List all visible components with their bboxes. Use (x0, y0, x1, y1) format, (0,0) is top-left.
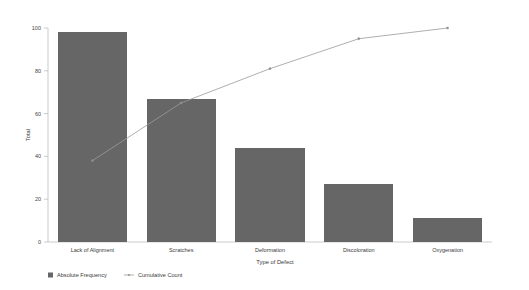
cumulative-point (91, 160, 93, 162)
bar (58, 32, 127, 242)
y-tick-label: 80 (35, 68, 41, 74)
chart-legend: Absolute FrequencyCumulative Count (48, 272, 183, 278)
bar (147, 99, 216, 242)
legend-swatch-marker (128, 274, 130, 276)
cumulative-point (447, 27, 449, 29)
y-tick-group: 020406080100 (32, 25, 48, 245)
bar (235, 148, 304, 242)
chart-canvas: 020406080100 Total Lack of AlignmentScra… (0, 0, 529, 290)
pareto-chart: 020406080100 Total Lack of AlignmentScra… (0, 0, 529, 290)
x-tick-label: Scratches (169, 247, 194, 253)
legend-label: Cumulative Count (138, 272, 183, 278)
x-tick-label: Lack of Alignment (71, 247, 115, 253)
x-axis-title: Type of Defect (256, 259, 294, 265)
x-axis: Lack of AlignmentScratchesDeformationDis… (48, 242, 492, 265)
cumulative-point (358, 38, 360, 40)
x-tick-label: Deformation (255, 247, 285, 253)
legend-swatch-square (48, 273, 53, 278)
legend-label: Absolute Frequency (57, 272, 107, 278)
y-tick-label: 100 (32, 25, 41, 31)
bar (413, 218, 482, 242)
x-tick-group: Lack of AlignmentScratchesDeformationDis… (71, 247, 463, 253)
y-axis-title: Total (25, 129, 31, 141)
y-tick-label: 40 (35, 153, 41, 159)
cumulative-point (269, 68, 271, 70)
bar-series-absolute-frequency (58, 32, 482, 242)
bar (324, 184, 393, 242)
y-axis: 020406080100 Total (25, 25, 48, 245)
x-tick-label: Oxygenation (432, 247, 463, 253)
cumulative-line (92, 28, 447, 161)
cumulative-point (180, 102, 182, 104)
x-tick-label: Discoloration (343, 247, 375, 253)
y-tick-label: 0 (38, 239, 41, 245)
line-series-cumulative-count (91, 27, 448, 162)
y-tick-label: 60 (35, 111, 41, 117)
y-tick-label: 20 (35, 196, 41, 202)
